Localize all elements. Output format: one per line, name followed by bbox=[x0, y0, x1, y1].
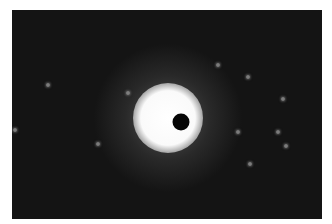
diffraction-spot bbox=[96, 142, 100, 146]
beam-stop bbox=[173, 114, 190, 131]
diffraction-spot bbox=[246, 75, 250, 79]
diffraction-spot bbox=[236, 130, 240, 134]
diffraction-spot bbox=[248, 162, 252, 166]
diffraction-spot bbox=[276, 130, 280, 134]
diffraction-spot bbox=[126, 91, 130, 95]
diffraction-spot bbox=[281, 97, 285, 101]
diffraction-spot bbox=[13, 128, 17, 132]
central-beam bbox=[133, 83, 203, 153]
diffraction-spot bbox=[46, 83, 50, 87]
diffraction-image bbox=[12, 10, 322, 219]
diffraction-spot bbox=[216, 63, 220, 67]
diffraction-spot bbox=[284, 144, 288, 148]
